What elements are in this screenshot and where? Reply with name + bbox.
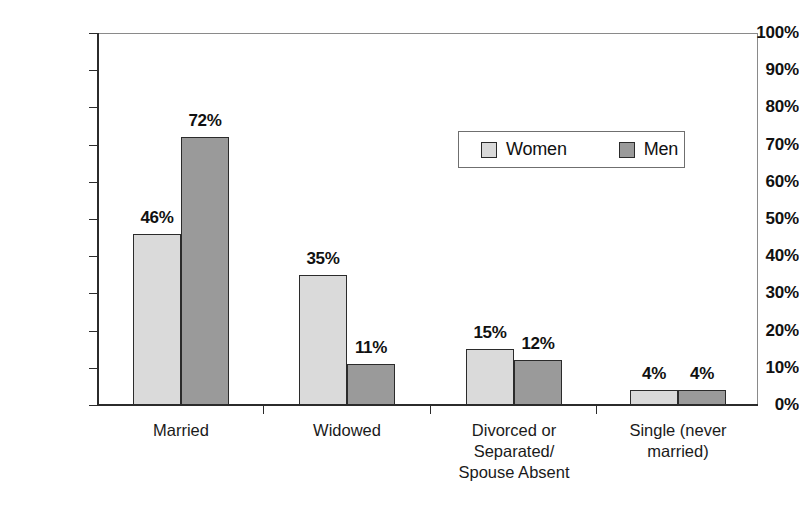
y-tick-label: 40%	[717, 246, 799, 266]
y-tick-label: 60%	[717, 172, 799, 192]
bar-value-women-widowed: 35%	[306, 249, 339, 269]
bar-women-single	[630, 390, 678, 405]
bar-value-men-divorced: 12%	[521, 334, 554, 354]
y-tick-label: 90%	[717, 60, 799, 80]
bar-value-women-married: 46%	[140, 208, 173, 228]
y-tick-label: 20%	[717, 321, 799, 341]
legend-item-women: Women	[481, 139, 567, 160]
legend-label-men: Men	[644, 139, 678, 160]
bar-men-single	[678, 390, 726, 405]
x-category-label-married: Married	[86, 420, 276, 441]
bar-women-married	[133, 234, 181, 405]
y-tick-label: 80%	[717, 97, 799, 117]
y-tick-label: 30%	[717, 283, 799, 303]
bar-men-widowed	[347, 364, 395, 405]
bar-women-widowed	[299, 275, 347, 405]
legend-swatch-men-icon	[619, 142, 635, 158]
bar-value-men-single: 4%	[690, 364, 714, 384]
legend-label-women: Women	[506, 139, 567, 160]
bar-chart: 100% 90% 80% 70% 60% 50% 40% 30% 20% 10%…	[0, 0, 799, 512]
bar-value-men-widowed: 11%	[355, 338, 387, 358]
bar-value-women-single: 4%	[642, 364, 666, 384]
legend: Women Men	[458, 131, 685, 168]
bar-value-men-married: 72%	[188, 111, 221, 131]
x-category-label-single: Single (never married)	[583, 420, 773, 462]
y-axis-line	[97, 33, 99, 406]
x-category-label-divorced: Divorced or Separated/ Spouse Absent	[419, 420, 609, 483]
y-tick-label: 0%	[717, 395, 799, 415]
bar-men-married	[181, 137, 229, 405]
legend-swatch-women-icon	[481, 142, 497, 158]
y-tick-label: 50%	[717, 209, 799, 229]
legend-item-men: Men	[619, 139, 678, 160]
bar-women-divorced	[466, 349, 514, 405]
y-tick-label: 70%	[717, 135, 799, 155]
x-category-label-widowed: Widowed	[252, 420, 442, 441]
bar-value-women-divorced: 15%	[473, 323, 506, 343]
y-tick-label: 100%	[717, 23, 799, 43]
y-tick-label: 10%	[717, 358, 799, 378]
bar-men-divorced	[514, 360, 562, 405]
